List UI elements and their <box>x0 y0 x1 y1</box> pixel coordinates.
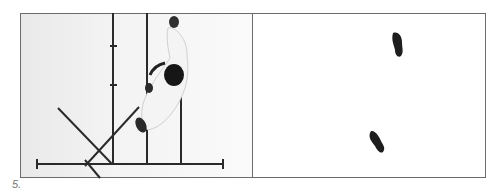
diagonal-line-1 <box>58 108 112 164</box>
figure-drawing <box>0 0 503 193</box>
footprint-rear <box>370 131 385 153</box>
fist <box>145 83 153 93</box>
diagonal-line-3 <box>85 160 100 178</box>
hand-icon <box>169 16 179 28</box>
figure-label: 5. <box>12 178 21 190</box>
head <box>164 64 184 86</box>
guide-lines <box>37 13 223 178</box>
footprint-front <box>392 33 402 57</box>
footprints <box>370 33 403 153</box>
figure-person <box>133 16 188 134</box>
